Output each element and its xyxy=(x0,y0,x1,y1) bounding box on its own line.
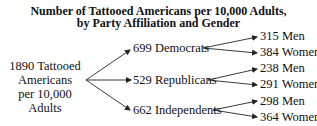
node-democrats: 699 Democrats xyxy=(133,41,209,55)
arrow-root-independents xyxy=(86,80,130,110)
node-independents: 662 Independents xyxy=(133,103,222,117)
node-republicans: 529 Republicans xyxy=(133,73,217,87)
node-democrats-women: 384 Women xyxy=(260,45,317,59)
arrow-root-democrats xyxy=(86,50,130,80)
arrow-democrats-men xyxy=(203,37,257,48)
node-republicans-men: 238 Men xyxy=(260,61,305,75)
arrow-democrats-women xyxy=(203,48,257,53)
node-independents-women: 364 Women xyxy=(260,110,317,124)
node-independents-men: 298 Men xyxy=(260,94,305,108)
node-democrats-men: 315 Men xyxy=(260,29,305,43)
node-republicans-women: 291 Women xyxy=(260,77,317,91)
